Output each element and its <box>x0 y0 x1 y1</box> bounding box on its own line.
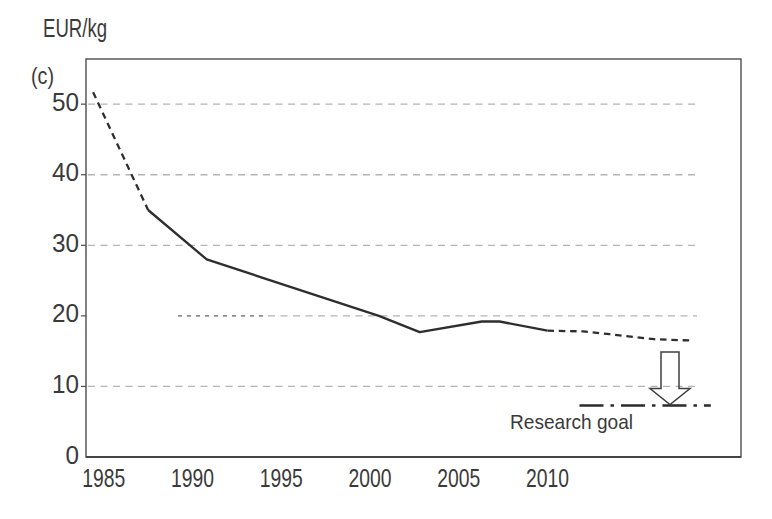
y-axis-tick-label: 20 <box>52 299 79 327</box>
research-goal-label: Research goal <box>510 410 633 433</box>
plot-area: 01020304050198519901995200020052010 <box>52 59 741 493</box>
panel-letter-label: (c) <box>31 62 54 89</box>
x-axis-tick-label: 2000 <box>349 463 392 493</box>
y-axis-tick-label: 10 <box>52 370 79 398</box>
x-axis-tick-label: 2010 <box>526 463 569 493</box>
down-arrow-icon <box>650 352 690 405</box>
x-axis-tick-label: 2005 <box>437 463 480 493</box>
plot-border <box>86 59 741 457</box>
y-axis-tick-label: 40 <box>52 158 79 186</box>
x-axis-tick-label: 1995 <box>260 463 303 493</box>
series-price-per-kg-dashed <box>93 92 148 210</box>
series-price-per-kg-solid <box>148 210 547 332</box>
series-price-per-kg-dashed <box>548 331 694 341</box>
x-axis-tick-label: 1990 <box>171 463 214 493</box>
price-trend-line-chart: EUR/kg (c) Research goal 010203040501985… <box>0 0 772 519</box>
y-axis-tick-label: 30 <box>52 229 79 257</box>
y-axis-tick-label: 50 <box>52 88 79 116</box>
figure-panel-c: EUR/kg (c) Research goal 010203040501985… <box>0 0 772 519</box>
x-axis-tick-label: 1985 <box>82 463 125 493</box>
y-axis-unit-label: EUR/kg <box>43 13 107 43</box>
y-axis-tick-label: 0 <box>66 441 80 469</box>
